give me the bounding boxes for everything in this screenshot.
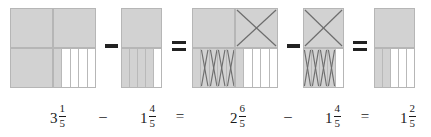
mixed-number: 2 6 5: [230, 103, 246, 129]
cross-out-icon: [304, 49, 311, 87]
cross-out-icon: [210, 49, 217, 87]
diagram-one-and-four-fifths-removed: [303, 8, 344, 88]
cross-out-icon: [320, 49, 327, 87]
fraction-part: 1 5: [59, 103, 67, 129]
fifth-cell: [130, 49, 138, 87]
whole-part: 3: [50, 111, 59, 126]
fraction-part: 6 5: [239, 103, 247, 129]
denominator: 5: [334, 118, 342, 130]
cross-out-icon: [218, 49, 225, 87]
diagram-three-and-one-fifth: [10, 8, 96, 88]
diagram-op-equals-2: [353, 41, 367, 52]
fifth-cell: [253, 49, 261, 87]
expression-operator-minus-1: –: [93, 96, 113, 137]
fifth-cell-crossed: [210, 49, 218, 87]
fifth-cell: [71, 49, 79, 87]
diagram-op-minus-2: [287, 44, 300, 48]
whole-part: 2: [230, 111, 239, 126]
whole-square: [10, 48, 53, 88]
fifth-cell-crossed: [227, 49, 234, 87]
diagram-row-bottom: [374, 48, 415, 88]
diagram-two-and-six-fifths: [192, 8, 278, 88]
whole-part: 1: [140, 111, 149, 126]
expression-operator-equals-1: =: [170, 96, 190, 137]
expression-term-subtrahend-2: 1 4 5: [313, 96, 353, 137]
whole-square-crossed: [235, 8, 278, 48]
whole-part: 1: [325, 111, 334, 126]
fraction-part: 2 5: [409, 103, 417, 129]
fifths-square: [53, 48, 96, 88]
diagram-one-and-two-fifths: [374, 8, 415, 88]
fifth-cell-crossed: [328, 49, 336, 87]
fifth-cell: [88, 49, 95, 87]
fifths-square: [303, 48, 344, 88]
expression-operator-minus-2: –: [278, 96, 298, 137]
fifth-cell: [138, 49, 146, 87]
expression-term-minuend: 3 1 5: [38, 96, 78, 137]
fifth-cell: [236, 49, 244, 87]
diagram-op-minus-1: [105, 44, 118, 48]
equals-sign: =: [176, 109, 184, 124]
numerator: 4: [149, 103, 157, 115]
whole-part: 1: [400, 111, 409, 126]
fifth-cell: [54, 49, 62, 87]
cross-out-icon: [312, 49, 319, 87]
fifth-cell: [154, 49, 161, 87]
numerator: 1: [59, 103, 67, 115]
cross-out-icon: [227, 49, 234, 87]
minus-sign: –: [99, 109, 107, 124]
whole-square: [10, 8, 53, 48]
mixed-number: 1 4 5: [140, 103, 156, 129]
diagram-row-bottom: [192, 48, 278, 88]
diagram-row-bottom: [10, 48, 96, 88]
fifth-cell: [79, 49, 87, 87]
denominator: 5: [149, 118, 157, 130]
fifth-cell: [261, 49, 269, 87]
fraction-part: 4 5: [149, 103, 157, 129]
fifth-cell: [407, 49, 414, 87]
fraction-part: 4 5: [334, 103, 342, 129]
diagram-row: [0, 0, 431, 96]
cross-out-icon: [201, 49, 208, 87]
fifth-cell: [146, 49, 154, 87]
diagram-row-bottom: [121, 48, 162, 88]
diagram-row-top: [303, 8, 344, 48]
fifth-cell: [399, 49, 407, 87]
mixed-number: 1 2 5: [400, 103, 416, 129]
denominator: 5: [59, 118, 67, 130]
whole-square: [374, 8, 415, 48]
fifth-cell-crossed: [201, 49, 209, 87]
numerator: 4: [334, 103, 342, 115]
diagram-row-top: [192, 8, 278, 48]
expression-term-difference: 1 2 5: [388, 96, 428, 137]
diagram-row-top: [121, 8, 162, 48]
expression-row: 3 1 5 – 1 4 5 =: [0, 96, 431, 137]
fifths-square: [192, 48, 235, 88]
fifths-square: [235, 48, 278, 88]
whole-square: [53, 8, 96, 48]
numerator: 6: [239, 103, 247, 115]
diagram-row-top: [10, 8, 96, 48]
fifth-cell: [193, 49, 201, 87]
fraction-subtraction-figure: 3 1 5 – 1 4 5 =: [0, 0, 431, 137]
whole-square: [121, 8, 162, 48]
expression-operator-equals-2: =: [355, 96, 375, 137]
fifth-cell: [383, 49, 391, 87]
diagram-one-and-four-fifths: [121, 8, 162, 88]
diagram-row-top: [374, 8, 415, 48]
mixed-number: 1 4 5: [325, 103, 341, 129]
mixed-number: 3 1 5: [50, 103, 66, 129]
expression-term-subtrahend: 1 4 5: [128, 96, 168, 137]
fifth-cell-crossed: [312, 49, 320, 87]
diagram-row-bottom: [303, 48, 344, 88]
fifth-cell-crossed: [218, 49, 226, 87]
denominator: 5: [409, 118, 417, 130]
fifth-cell: [62, 49, 70, 87]
minus-sign: –: [284, 109, 292, 124]
denominator: 5: [239, 118, 247, 130]
fifth-cell: [122, 49, 130, 87]
fifth-cell: [375, 49, 383, 87]
fifth-cell: [244, 49, 252, 87]
cross-out-icon: [304, 9, 343, 47]
diagram-op-equals-1: [172, 41, 186, 52]
